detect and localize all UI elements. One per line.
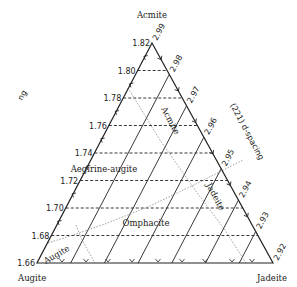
vertex-label-bottom-left: Augite: [17, 273, 46, 283]
right-tick-label: 2.92: [272, 242, 288, 262]
d-spacing-contour: [138, 137, 204, 263]
right-tick-label: 2.99: [151, 22, 167, 42]
right-axis-labels: 2.992.982.972.962.952.942.932.92: [151, 22, 288, 262]
right-tick-label: 2.98: [168, 53, 184, 73]
right-tick-label: 2.96: [203, 116, 219, 136]
field-label-omphacite: Omphacite: [123, 218, 170, 228]
tick-mark: [156, 259, 161, 262]
tick-mark: [230, 259, 235, 262]
right-tick-label: 2.93: [255, 211, 271, 231]
tick-mark: [60, 259, 65, 262]
vertex-label-top: Acmite: [136, 10, 167, 20]
tick-mark: [106, 259, 111, 262]
left-tick-label: 1.66: [17, 259, 35, 268]
left-tick-label: 1.82: [132, 39, 150, 48]
tick-mark: [180, 259, 185, 262]
d-spacing-contour: [239, 232, 255, 263]
right-tick-label: 2.94: [237, 179, 253, 199]
field-label-aegirine-augite: Aegirine-augite: [70, 164, 138, 174]
left-axis-labels: 1.821.801.781.761.741.721.701.681.66: [17, 39, 150, 268]
left-tick-label: 1.68: [32, 232, 50, 241]
tick-mark: [250, 259, 255, 262]
left-axis-title: ng: [16, 89, 29, 102]
left-tick-label: 1.72: [60, 177, 78, 186]
left-tick-label: 1.70: [46, 204, 64, 213]
vertex-label-bottom-right: Jadeite: [256, 273, 287, 283]
field-boundary-lines: [48, 88, 246, 263]
left-tick-label: 1.80: [118, 67, 136, 76]
left-tick-label: 1.78: [103, 94, 121, 103]
tick-mark: [130, 259, 135, 262]
right-tick-label: 2.97: [185, 85, 201, 105]
left-tick-label: 1.76: [89, 122, 107, 131]
left-tick-label: 1.74: [75, 149, 93, 158]
tick-mark: [84, 259, 89, 262]
ternary-diagram: Acmite Augite Jadeite 1.821.801.781.761.…: [0, 0, 297, 287]
